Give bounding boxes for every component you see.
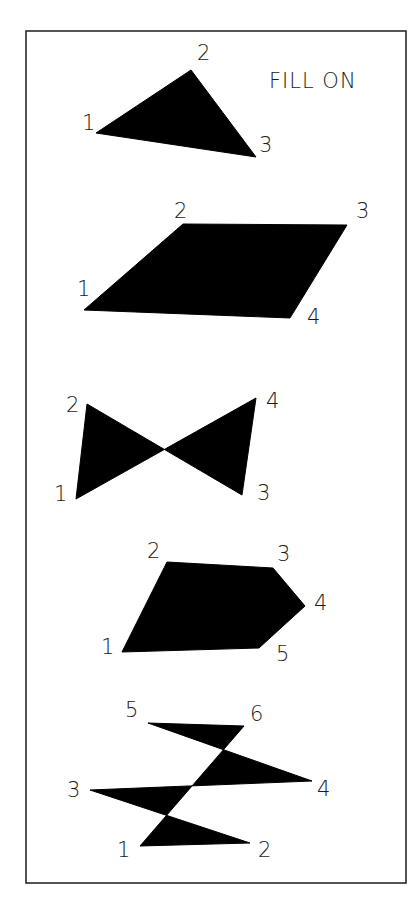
vertex-label: 4 — [317, 777, 330, 801]
vertex-label: 4 — [314, 591, 327, 615]
vertex-label: 1 — [77, 277, 90, 301]
vertex-label: 2 — [174, 199, 187, 223]
vertex-label: 2 — [258, 838, 271, 862]
vertex-label: 1 — [82, 111, 95, 135]
open-pentagon-filled-polygon — [122, 562, 305, 652]
vertex-label: 4 — [266, 389, 279, 413]
vertex-label: 2 — [147, 539, 160, 563]
shape-triangle: 123 — [82, 41, 272, 157]
fill-on-title: FILL ON — [269, 69, 357, 93]
shape-bowtie: 1234 — [77, 199, 369, 329]
vertex-label: 3 — [257, 481, 270, 505]
vertex-label: 6 — [250, 702, 263, 726]
triangle-filled-polygon — [96, 70, 256, 157]
vertex-label: 2 — [197, 41, 210, 65]
vertex-label: 3 — [277, 542, 290, 566]
vertex-label: 2 — [66, 393, 79, 417]
shape-open-pentagon: 12345 — [101, 539, 327, 666]
vertex-label: 1 — [101, 635, 114, 659]
bowtie-filled-polygon — [84, 224, 347, 318]
vertex-label: 5 — [276, 642, 289, 666]
fill-on-diagram: FILL ON 1231234123412345123456 — [0, 0, 420, 906]
shapes-layer: 1231234123412345123456 — [54, 41, 369, 862]
vertex-label: 1 — [117, 838, 130, 862]
vertex-label: 4 — [307, 305, 320, 329]
hexagon-filled-polygon — [90, 723, 312, 846]
quadrilateral-filled-polygon — [76, 398, 256, 499]
vertex-label: 3 — [259, 133, 272, 157]
vertex-label: 1 — [54, 482, 67, 506]
vertex-label: 3 — [67, 778, 80, 802]
shape-hexagon: 123456 — [67, 698, 330, 862]
shape-quadrilateral: 1234 — [54, 389, 279, 506]
vertex-label: 5 — [125, 698, 138, 722]
vertex-label: 3 — [356, 199, 369, 223]
